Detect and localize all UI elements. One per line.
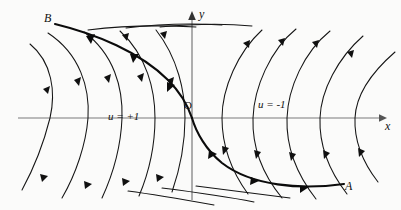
flow-arrow-upper-3	[312, 40, 319, 48]
u-minus-curve-4	[320, 36, 363, 194]
flow-arrow-up-1	[43, 86, 50, 94]
label-u-minus-one: u = -1	[258, 99, 286, 110]
flow-arrow-lower-3	[122, 178, 130, 186]
separatrix-curve	[55, 24, 344, 186]
separatrix-arrow-1	[86, 34, 95, 44]
lower-streak-1	[196, 186, 290, 198]
flow-arrow-up-2	[74, 77, 81, 86]
flow-arrow-down-1	[222, 146, 229, 155]
y-axis-arrowhead	[188, 11, 196, 20]
upper-flow-streaks	[88, 24, 252, 30]
label-B: B	[44, 12, 51, 24]
flow-arrow-upper-2	[278, 38, 285, 46]
u-minus-curve-2	[253, 29, 296, 198]
flow-arrow-up-4	[137, 73, 144, 82]
separatrix-arrow-2	[130, 54, 139, 63]
flow-arrow-up-3	[104, 74, 111, 83]
x-axis-label: x	[385, 120, 390, 132]
u-minus-curve-3	[287, 31, 330, 199]
lower-streak-2	[162, 188, 254, 202]
separatrix-upper-branch-B	[55, 24, 192, 118]
origin-label: O	[184, 100, 192, 111]
u-plus-curve-2	[48, 33, 88, 198]
phase-plane-canvas	[0, 0, 401, 210]
flow-arrow-lower-2	[84, 181, 92, 189]
label-u-plus-one: u = +1	[108, 111, 139, 122]
lower-flow-streaks	[128, 186, 290, 205]
y-axis-label: y	[199, 8, 204, 20]
u-plus-curve-1	[22, 44, 53, 190]
u-plus-one-curve-family	[22, 30, 185, 198]
label-A: A	[345, 180, 352, 192]
u-minus-one-curve-family	[222, 29, 395, 199]
separatrix-arrow-6	[300, 186, 309, 193]
flow-arrow-down-2	[254, 150, 261, 159]
u-plus-curve-5	[156, 30, 185, 192]
u-minus-curve-5	[355, 52, 395, 182]
flow-arrow-down-5	[358, 148, 365, 157]
flow-arrow-down-3	[289, 152, 296, 161]
flow-arrow-lower-1	[40, 174, 48, 182]
u-minus-curve-1	[222, 30, 262, 194]
flow-arrow-lower-4	[156, 174, 164, 182]
separatrix-lower-branch-A	[192, 118, 344, 186]
u-plus-one-arrowheads	[40, 73, 174, 189]
phase-plane-figure: B A y x O u = +1 u = -1	[0, 0, 401, 210]
axes-group	[18, 11, 387, 200]
